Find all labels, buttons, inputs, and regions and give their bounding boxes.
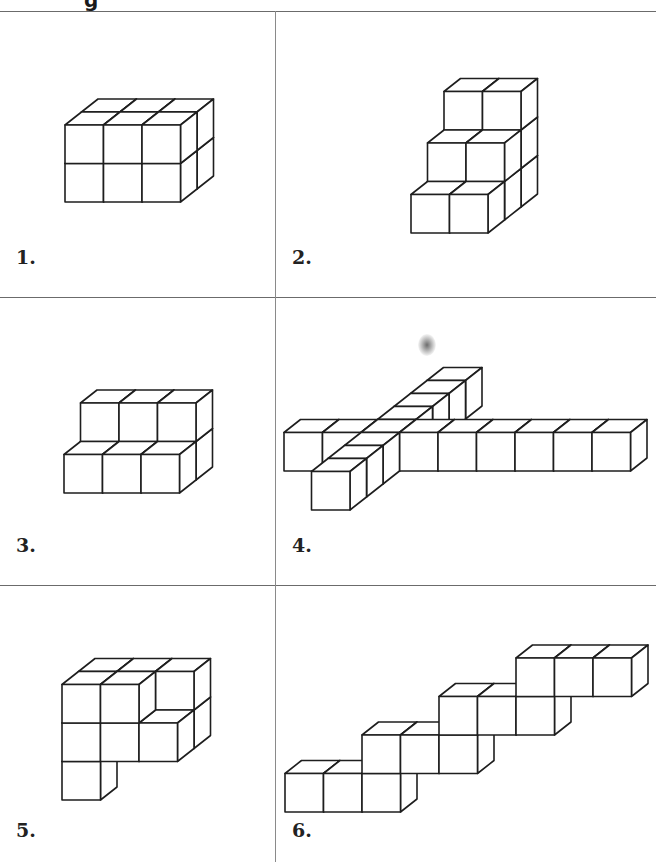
figure-label-6: 6. bbox=[292, 819, 312, 841]
cube-figures bbox=[0, 0, 656, 862]
figure-label-4: 4. bbox=[292, 534, 312, 556]
cube-figure-5 bbox=[62, 659, 211, 801]
figure-label-1: 1. bbox=[16, 246, 36, 268]
cube-figure-4 bbox=[284, 368, 647, 511]
cube-figure-6 bbox=[285, 645, 648, 812]
figure-label-3: 3. bbox=[16, 534, 36, 556]
cube-figure-1 bbox=[65, 99, 214, 202]
figure-label-2: 2. bbox=[292, 246, 312, 268]
cube-figure-2 bbox=[411, 79, 538, 234]
cube-figure-3 bbox=[64, 390, 213, 493]
figure-label-5: 5. bbox=[16, 819, 36, 841]
